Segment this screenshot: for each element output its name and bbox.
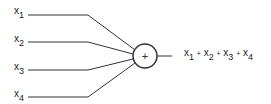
plus-symbol: + [142,50,148,62]
summation-diagram: + x1 x2 x3 x4 x1 + x2 + x3 + x4 [0,0,271,104]
input-label-4: x4 [14,89,24,103]
input-line-2 [28,42,133,54]
input-line-1 [28,15,135,50]
input-line-3 [28,59,133,70]
input-label-1: x1 [14,6,24,20]
output-expression: x1 + x2 + x3 + x4 [184,48,253,62]
input-label-2: x2 [14,34,24,48]
input-label-3: x3 [14,62,24,76]
input-line-4 [28,63,135,97]
